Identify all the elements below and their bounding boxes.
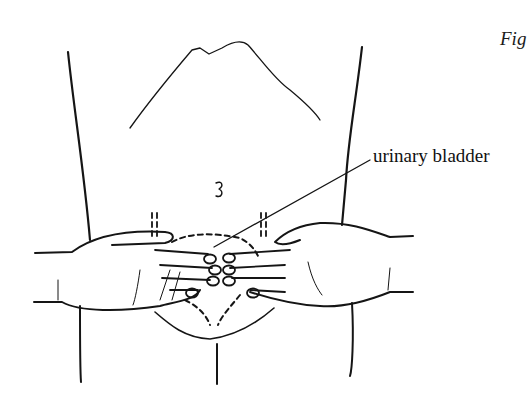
navel	[216, 182, 222, 196]
left-hand	[34, 232, 221, 311]
bladder-palpation-illustration	[0, 0, 531, 416]
pubic-outline	[155, 308, 274, 339]
right-hand	[223, 223, 413, 306]
callout-leader-line	[214, 160, 370, 247]
rib-margin	[130, 42, 320, 128]
torso-outline	[68, 47, 362, 384]
